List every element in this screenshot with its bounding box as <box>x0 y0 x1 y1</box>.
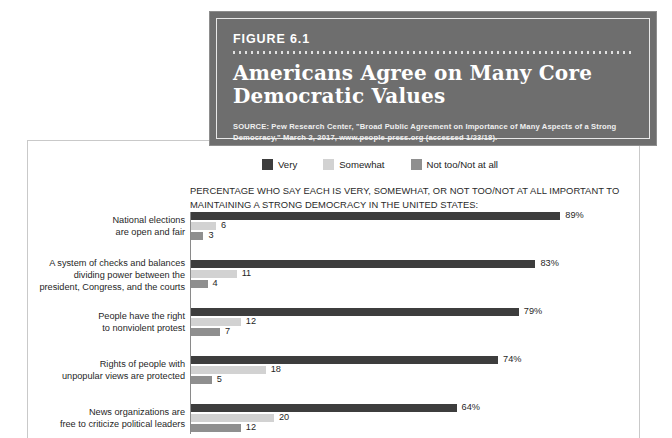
chart-bar <box>191 270 237 278</box>
legend-item-very: Very <box>262 159 297 170</box>
chart-category-label-line: are open and fair <box>0 226 185 238</box>
figure-number: FIGURE 6.1 <box>233 33 633 46</box>
figure-header-box: FIGURE 6.1 Americans Agree on Many Core … <box>210 12 656 145</box>
chart-category-label: Rights of people withunpopular views are… <box>0 358 185 382</box>
chart-category-label-line: to nonviolent protest <box>0 322 185 334</box>
chart-bar <box>191 404 457 412</box>
chart-bar-value-label: 83% <box>540 258 558 269</box>
chart-category-label-line: president, Congress, and the courts <box>0 281 185 293</box>
legend-swatch-not-too <box>411 159 422 170</box>
chart-category-label-line: News organizations are <box>0 406 185 418</box>
chart-bar-value-label: 74% <box>503 354 521 365</box>
bar-chart: National electionsare open and fair89%63… <box>27 212 640 434</box>
figure-dotted-rule <box>233 51 633 54</box>
chart-subtitle: PERCENTAGE WHO SAY EACH IS VERY, SOMEWHA… <box>190 184 620 211</box>
chart-bar <box>191 308 519 316</box>
chart-category-label: News organizations arefree to criticize … <box>0 406 185 430</box>
chart-bar-value-label: 4 <box>213 278 218 289</box>
chart-category-label: A system of checks and balancesdividing … <box>0 257 185 293</box>
chart-bar-value-label: 79% <box>524 306 542 317</box>
chart-bar <box>191 232 203 240</box>
chart-bar-value-label: 18 <box>271 364 281 375</box>
chart-bar-value-label: 12 <box>246 316 256 327</box>
figure-header-inner: FIGURE 6.1 Americans Agree on Many Core … <box>216 18 650 139</box>
legend-swatch-somewhat <box>323 159 334 170</box>
chart-bar <box>191 356 498 364</box>
chart-category-label: National electionsare open and fair <box>0 214 185 238</box>
chart-bar <box>191 414 274 422</box>
chart-category-label-line: A system of checks and balances <box>0 257 185 269</box>
chart-category-label-line: National elections <box>0 214 185 226</box>
chart-legend: Very Somewhat Not too/Not at all <box>262 159 498 170</box>
chart-group: A system of checks and balancesdividing … <box>27 260 640 294</box>
chart-group: Rights of people withunpopular views are… <box>27 356 640 390</box>
legend-item-not-too: Not too/Not at all <box>411 159 498 170</box>
legend-label-somewhat: Somewhat <box>339 160 384 170</box>
chart-bar <box>191 318 241 326</box>
chart-bar <box>191 212 560 220</box>
chart-category-label-line: free to criticize political leaders <box>0 418 185 430</box>
legend-label-not-too: Not too/Not at all <box>427 160 498 170</box>
chart-group: News organizations arefree to criticize … <box>27 404 640 438</box>
chart-bar <box>191 376 212 384</box>
chart-bar <box>191 328 220 336</box>
chart-bar <box>191 424 241 432</box>
chart-category-label-line: dividing power between the <box>0 269 185 281</box>
chart-bar-value-label: 5 <box>217 374 222 385</box>
chart-bar-value-label: 7 <box>225 326 230 337</box>
chart-bar-value-label: 64% <box>462 402 480 413</box>
figure-source-note: SOURCE: Pew Research Center, "Broad Publ… <box>233 121 633 143</box>
chart-bar-value-label: 11 <box>242 268 252 279</box>
chart-category-label-line: Rights of people with <box>0 358 185 370</box>
chart-bar <box>191 280 208 288</box>
chart-bar <box>191 366 266 374</box>
legend-swatch-very <box>262 159 273 170</box>
chart-bar-value-label: 6 <box>221 220 226 231</box>
chart-category-label-line: People have the right <box>0 310 185 322</box>
chart-bar-value-label: 12 <box>246 422 256 433</box>
chart-group: People have the rightto nonviolent prote… <box>27 308 640 342</box>
chart-category-label-line: unpopular views are protected <box>0 370 185 382</box>
chart-category-label: People have the rightto nonviolent prote… <box>0 310 185 334</box>
figure-title: Americans Agree on Many Core Democratic … <box>233 62 603 109</box>
chart-bar-value-label: 3 <box>208 230 213 241</box>
chart-bar <box>191 260 535 268</box>
chart-bar <box>191 222 216 230</box>
legend-item-somewhat: Somewhat <box>323 159 384 170</box>
legend-label-very: Very <box>278 160 297 170</box>
chart-bar-value-label: 20 <box>279 412 289 423</box>
chart-group: National electionsare open and fair89%63 <box>27 212 640 246</box>
chart-bar-value-label: 89% <box>565 210 583 221</box>
